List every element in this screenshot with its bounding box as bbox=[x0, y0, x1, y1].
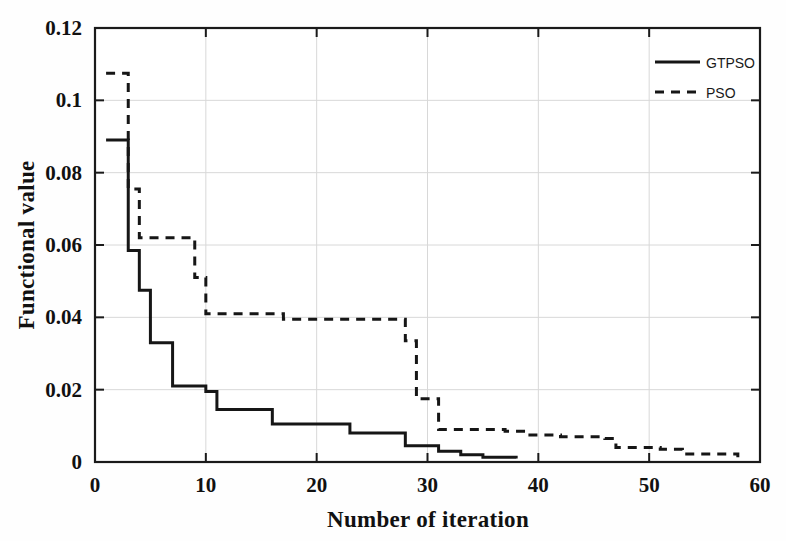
legend-label-pso: PSO bbox=[706, 85, 736, 101]
xtick-label-4: 40 bbox=[528, 473, 549, 497]
ytick-label-4: 0.08 bbox=[45, 161, 82, 185]
xtick-label-6: 60 bbox=[750, 473, 771, 497]
ytick-label-1: 0.02 bbox=[45, 378, 82, 402]
xtick-label-2: 20 bbox=[306, 473, 327, 497]
ytick-label-0: 0 bbox=[72, 450, 83, 474]
x-axis-tick-labels: 0102030405060 bbox=[90, 473, 771, 497]
xtick-label-0: 0 bbox=[90, 473, 101, 497]
ytick-label-2: 0.04 bbox=[45, 305, 82, 329]
chart-figure: 00.020.040.060.080.10.12 0102030405060 F… bbox=[0, 0, 786, 541]
y-axis-title: Functional value bbox=[14, 160, 39, 329]
y-axis-tick-labels: 00.020.040.060.080.10.12 bbox=[45, 16, 82, 474]
ytick-label-5: 0.1 bbox=[56, 88, 82, 112]
ytick-label-6: 0.12 bbox=[45, 16, 82, 40]
xtick-label-1: 10 bbox=[195, 473, 216, 497]
convergence-line-chart: 00.020.040.060.080.10.12 0102030405060 F… bbox=[0, 0, 786, 541]
xtick-label-3: 30 bbox=[417, 473, 438, 497]
xtick-label-5: 50 bbox=[639, 473, 660, 497]
legend-label-gtpso: GTPSO bbox=[706, 55, 755, 71]
x-axis-title: Number of iteration bbox=[327, 507, 529, 532]
ytick-label-3: 0.06 bbox=[45, 233, 82, 257]
